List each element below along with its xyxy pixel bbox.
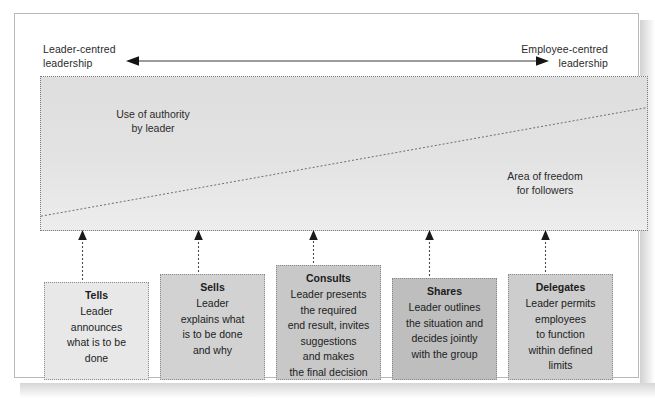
connector-arrow-consults: [308, 230, 319, 267]
option-box-sells[interactable]: Sells Leader explains what is to be done…: [160, 274, 265, 380]
option-body: Leader outlines the situation and decide…: [396, 300, 493, 362]
option-title: Consults: [280, 271, 377, 286]
option-body: Leader announces what is to be done: [48, 304, 145, 366]
connector-arrow-sells: [193, 230, 204, 276]
option-title: Tells: [48, 288, 145, 303]
page-shadow-bottom: [20, 383, 655, 398]
authority-freedom-band: [40, 76, 648, 231]
option-box-shares[interactable]: Shares Leader outlines the situation and…: [392, 278, 497, 380]
option-body: Leader presents the required end result,…: [280, 287, 377, 380]
option-title: Delegates: [512, 280, 609, 295]
option-box-consults[interactable]: Consults Leader presents the required en…: [276, 265, 381, 380]
connector-arrow-shares: [424, 230, 435, 280]
connector-arrow-tells: [77, 230, 88, 284]
band-label-area-of-freedom: Area of freedom for followers: [485, 169, 605, 197]
band-label-use-of-authority: Use of authority by leader: [93, 107, 213, 135]
diagram-frame: Leader-centred leadership Employee-centr…: [14, 13, 639, 378]
option-box-tells[interactable]: Tells Leader announces what is to be don…: [44, 282, 149, 380]
axis-label-leader-centred: Leader-centred leadership: [43, 42, 116, 70]
option-body: Leader explains what is to be done and w…: [164, 296, 261, 358]
option-title: Sells: [164, 280, 261, 295]
option-title: Shares: [396, 284, 493, 299]
connector-arrow-delegates: [540, 230, 551, 276]
option-box-delegates[interactable]: Delegates Leader permits employees to fu…: [508, 274, 613, 380]
option-body: Leader permits employees to function wit…: [512, 296, 609, 374]
diagram-canvas: Leader-centred leadership Employee-centr…: [0, 0, 655, 398]
diagonal-divider-line: [41, 77, 647, 230]
double-headed-arrow-icon: [125, 52, 550, 70]
